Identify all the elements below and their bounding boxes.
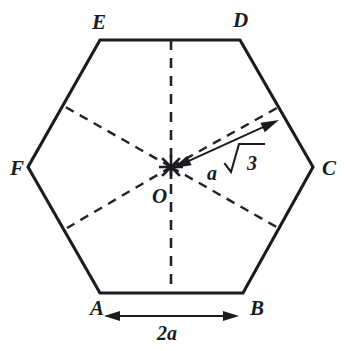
radius-label-a: a [207, 162, 217, 184]
hexagon-figure-canvas: a 3 A B C D E F O 2a [0, 0, 350, 351]
radical-operand-three: 3 [246, 152, 257, 174]
vertex-label-D: D [232, 8, 248, 32]
vertex-label-B: B [249, 296, 264, 320]
dashed-diagonal-upper-left [62, 105, 171, 167]
center-label-O: O [152, 184, 167, 208]
radical-symbol: 3 [225, 144, 264, 174]
vertex-label-E: E [91, 10, 106, 34]
arrow-head-right [223, 311, 239, 321]
arrow-head-outer [260, 120, 279, 132]
radius-label-group: a 3 [207, 144, 264, 184]
base-dimension-label: 2a [156, 322, 177, 344]
dashed-diagonal-lower-right [171, 167, 280, 229]
hexagon-diagram: a 3 A B C D E F O 2a [0, 0, 350, 351]
arrow-head-left [104, 311, 120, 321]
vertex-label-F: F [9, 156, 24, 180]
base-dimension-group: 2a [104, 311, 239, 344]
vertex-label-C: C [322, 156, 337, 180]
vertex-label-A: A [88, 296, 104, 320]
